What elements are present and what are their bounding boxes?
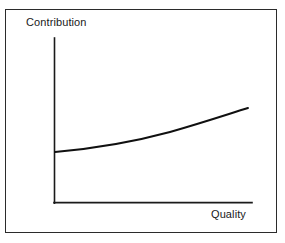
contribution-curve — [55, 108, 248, 152]
chart-figure: Contribution Quality — [0, 0, 285, 243]
y-axis-label: Contribution — [26, 16, 87, 28]
plot-area — [0, 0, 285, 243]
x-axis-label: Quality — [211, 208, 246, 220]
